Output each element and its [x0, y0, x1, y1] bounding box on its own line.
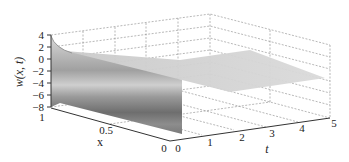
z-tick: −4	[32, 77, 44, 89]
t-tick: 0	[175, 142, 181, 154]
x-axis-label: x	[97, 135, 103, 149]
x-tick: 0	[161, 142, 167, 154]
svg-text:w(x, t): w(x, t)	[12, 57, 26, 88]
surface-plot: 4 2 0 −2 −4 −6 −8 1 0.5 0 0 1 2 3 4 5 x …	[0, 0, 349, 162]
z-tick: −2	[32, 65, 44, 77]
t-tick: 5	[331, 117, 337, 129]
t-axis-ticks: 0 1 2 3 4 5	[175, 117, 337, 154]
z-tick: 4	[39, 29, 45, 41]
t-tick: 3	[269, 127, 275, 139]
z-tick: 0	[39, 53, 45, 65]
z-label-args: (x, t)	[12, 57, 26, 80]
z-label-main: w	[12, 79, 26, 87]
t-tick: 4	[299, 122, 305, 134]
t-axis-label: t	[265, 142, 269, 156]
t-tick: 1	[207, 136, 213, 148]
x-tick: 1	[39, 111, 45, 123]
t-tick: 2	[239, 131, 245, 143]
z-tick: 2	[39, 41, 45, 53]
z-axis-ticks: 4 2 0 −2 −4 −6 −8	[32, 29, 51, 113]
z-tick: −6	[32, 89, 44, 101]
z-axis-label: w(x, t)	[12, 57, 26, 88]
